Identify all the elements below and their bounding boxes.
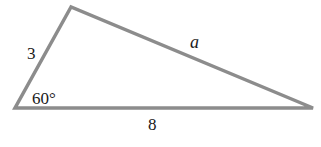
triangle-diagram: 3 a 60° 8 bbox=[0, 0, 321, 147]
side-label-a: a bbox=[190, 32, 199, 52]
side-label-left: 3 bbox=[27, 44, 36, 63]
angle-label: 60° bbox=[32, 89, 56, 108]
side-label-bottom: 8 bbox=[148, 115, 157, 134]
triangle bbox=[15, 7, 313, 108]
